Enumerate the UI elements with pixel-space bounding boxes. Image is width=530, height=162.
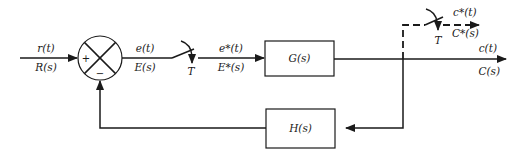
sampler-period-label: T xyxy=(187,65,195,77)
forward-block-label: G(s) xyxy=(289,52,311,64)
sampled-error-signal: e*(t) E*(s) xyxy=(198,42,264,73)
sampled-output-branch: T c*(t) C*(s) xyxy=(403,6,479,59)
minus-sign: − xyxy=(96,68,104,79)
dashed-branch-line xyxy=(403,25,425,59)
forward-block-g: G(s) xyxy=(265,41,334,76)
input-s-label: R(s) xyxy=(34,61,57,73)
sampled-output-time-label: c*(t) xyxy=(453,6,477,18)
sampled-error-s-label: E*(s) xyxy=(217,61,245,73)
error-time-label: e(t) xyxy=(136,42,155,54)
error-s-label: E(s) xyxy=(133,61,155,73)
output-signal: c(t) C(s) xyxy=(334,42,506,77)
output-time-label: c(t) xyxy=(479,42,497,54)
output-switch-blade xyxy=(425,17,443,25)
input-signal: r(t) R(s) xyxy=(20,42,77,73)
input-time-label: r(t) xyxy=(37,42,54,54)
feedback-block-label: H(s) xyxy=(288,122,312,134)
sampled-error-time-label: e*(t) xyxy=(219,42,243,54)
sampled-output-s-label: C*(s) xyxy=(452,27,479,39)
plus-sign: + xyxy=(82,53,90,64)
feedback-input-line xyxy=(346,59,403,128)
error-sampler-switch: T xyxy=(172,41,195,77)
error-signal: e(t) E(s) xyxy=(122,42,172,73)
block-diagram: r(t) R(s) + − e(t) E(s) T e*(t) E*(s) G(… xyxy=(0,0,530,162)
summing-junction: + − xyxy=(78,36,122,80)
output-s-label: C(s) xyxy=(478,65,500,77)
feedback-return-line xyxy=(100,81,266,128)
output-sampler-period-label: T xyxy=(434,34,442,46)
